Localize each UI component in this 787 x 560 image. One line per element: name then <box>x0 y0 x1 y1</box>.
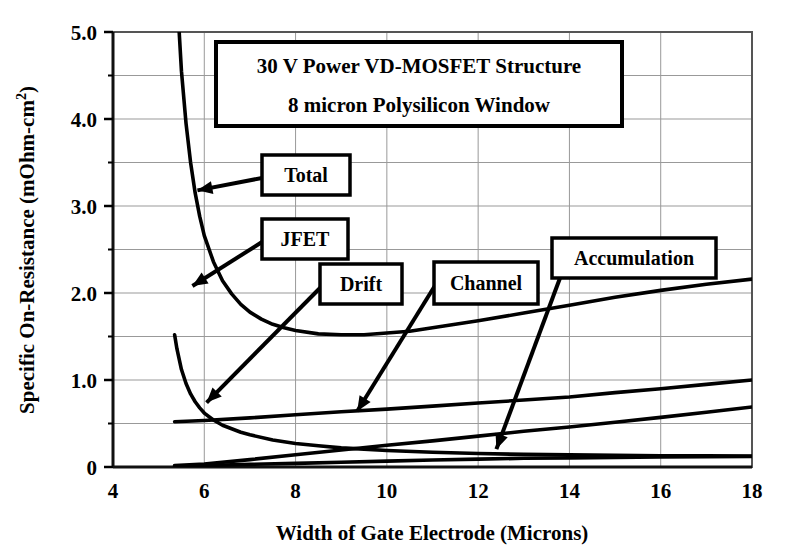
y-tick-label: 1.0 <box>71 369 97 393</box>
chart-title-line2: 8 micron Polysilicon Window <box>288 93 551 117</box>
y-axis-title: Specific On-Resistance (mOhm-cm2) <box>14 86 39 414</box>
x-tick-label: 6 <box>199 479 210 503</box>
svg-text:Specific On-Resistance (mOhm-: Specific On-Resistance (mOhm-cm2) <box>14 86 39 414</box>
x-axis-title: Width of Gate Electrode (Microns) <box>276 521 589 545</box>
x-tick-label: 14 <box>559 479 581 503</box>
callout-channel: Channel <box>434 262 538 304</box>
callout-drift-label: Drift <box>340 273 383 295</box>
y-tick-label: 4.0 <box>71 108 97 132</box>
chart-title-line1: 30 V Power VD-MOSFET Structure <box>257 54 581 78</box>
y-tick-label: 5.0 <box>71 21 97 45</box>
y-tick-label: 0 <box>87 456 98 480</box>
y-axis-title-close: ) <box>15 86 39 93</box>
callout-total: Total <box>262 155 350 195</box>
callout-jfet: JFET <box>262 219 348 259</box>
callout-total-label: Total <box>284 164 328 186</box>
y-tick-label: 3.0 <box>71 195 97 219</box>
callout-drift: Drift <box>320 264 402 304</box>
callout-jfet-label: JFET <box>281 228 331 250</box>
x-tick-label: 10 <box>376 479 397 503</box>
figure-container: 4681012141618 01.02.03.04.05.0 30 V Powe… <box>0 0 787 560</box>
callout-channel-label: Channel <box>450 272 523 294</box>
callout-accumulation-label: Accumulation <box>574 247 694 269</box>
callout-accumulation: Accumulation <box>552 238 716 278</box>
y-axis-title-main: Specific On-Resistance (mOhm-cm <box>15 100 39 414</box>
x-tick-labels: 4681012141618 <box>108 479 763 503</box>
y-axis-title-superscript: 2 <box>14 93 29 100</box>
chart-title-box: 30 V Power VD-MOSFET Structure 8 micron … <box>216 42 622 126</box>
y-tick-label: 2.0 <box>71 282 97 306</box>
y-tick-labels: 01.02.03.04.05.0 <box>71 21 97 480</box>
x-tick-label: 12 <box>468 479 489 503</box>
on-resistance-line-chart: 4681012141618 01.02.03.04.05.0 30 V Powe… <box>0 0 787 560</box>
x-tick-label: 8 <box>290 479 301 503</box>
x-tick-label: 16 <box>650 479 671 503</box>
x-tick-label: 18 <box>742 479 763 503</box>
x-tick-label: 4 <box>108 479 119 503</box>
